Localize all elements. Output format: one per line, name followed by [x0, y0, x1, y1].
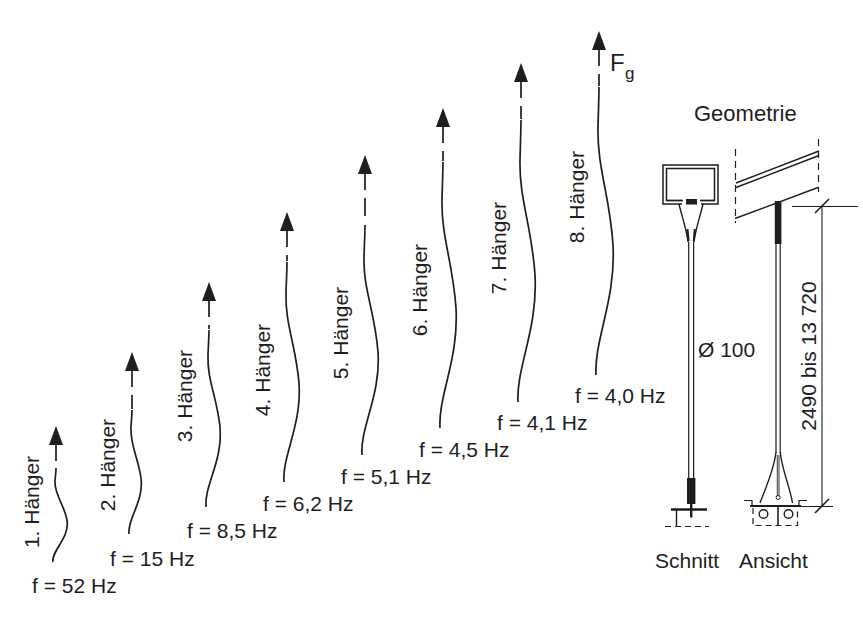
frequency-label: f = 4,0 Hz: [575, 384, 665, 407]
arrow-up-icon: [358, 155, 372, 174]
frequency-label: f = 52 Hz: [32, 574, 117, 597]
hanger-connection-plate: [686, 199, 697, 205]
figure-svg: 1. Hänger f = 52 Hz 2. Hänger f = 15 Hz …: [0, 0, 863, 624]
rod-slot-end: [776, 496, 780, 500]
hanger-group-8: 8. Hänger f = 4,0 Hz: [565, 31, 665, 407]
deck-top-edge-outer: [736, 151, 819, 183]
arrow-up-icon: [436, 108, 450, 127]
frequency-label: f = 8,5 Hz: [187, 519, 277, 542]
hanger-label: 5. Hänger: [329, 287, 352, 379]
frequency-label: f = 4,5 Hz: [419, 438, 509, 461]
hanger-curve: [518, 120, 535, 402]
anchor-bell-left: [760, 452, 776, 503]
hanger-label: 2. Hänger: [96, 419, 119, 511]
diameter-label: Ø 100: [698, 338, 755, 361]
hanger-label: 7. Hänger: [487, 202, 510, 294]
hanger-label: 4. Hänger: [251, 324, 274, 416]
hanger-group-7: 7. Hänger f = 4,1 Hz: [487, 63, 587, 434]
hanger-label: 8. Hänger: [565, 151, 588, 243]
arrow-up-icon: [49, 426, 63, 445]
frequency-label: f = 6,2 Hz: [263, 492, 353, 515]
frequency-label: f = 5,1 Hz: [341, 465, 431, 488]
dimension-value: 2490 bis 13 720: [797, 281, 820, 430]
arrow-up-icon: [280, 212, 294, 231]
hanger-label: 6. Hänger: [408, 244, 431, 336]
arrow-up-icon: [125, 352, 139, 371]
force-label: F g: [610, 49, 634, 83]
section-view-label: Schnitt: [655, 549, 719, 572]
anchor-pin-left: [759, 510, 768, 519]
geometry-title: Geometrie: [694, 101, 797, 126]
gusset-weld-left: [688, 229, 689, 241]
arrow-up-icon: [202, 282, 216, 301]
length-dimension: 2490 bis 13 720: [792, 199, 858, 513]
hanger-curve: [596, 87, 613, 375]
anchor-bell-right: [780, 452, 792, 503]
hanger-curve: [284, 262, 299, 482]
anchor-pin-right: [784, 510, 793, 519]
hanger-label: 1. Hänger: [20, 456, 43, 548]
hanger-frequency-figure: 1. Hänger f = 52 Hz 2. Hänger f = 15 Hz …: [0, 0, 863, 624]
hanger-curve: [362, 225, 378, 455]
force-subscript: g: [625, 64, 634, 83]
hanger-label: 3. Hänger: [173, 350, 196, 442]
arrow-up-icon: [514, 63, 528, 82]
hanger-curve: [206, 330, 220, 507]
frequency-label: f = 4,1 Hz: [497, 411, 587, 434]
gusset-taper-right: [694, 204, 703, 242]
hanger-curve: [53, 468, 67, 562]
frequency-label: f = 15 Hz: [110, 547, 195, 570]
arrow-up-icon: [592, 31, 606, 50]
hanger-curve: [440, 162, 456, 428]
gusset-taper-left: [679, 204, 688, 242]
hanger-curve: [129, 410, 142, 534]
deck-top-edge-inner: [736, 156, 819, 188]
threaded-rod-top: [775, 201, 782, 244]
gusset-weld-right: [694, 229, 695, 241]
elevation-view-label: Ansicht: [739, 549, 808, 572]
force-symbol: F: [610, 49, 625, 76]
threaded-rod-end: [687, 478, 695, 504]
